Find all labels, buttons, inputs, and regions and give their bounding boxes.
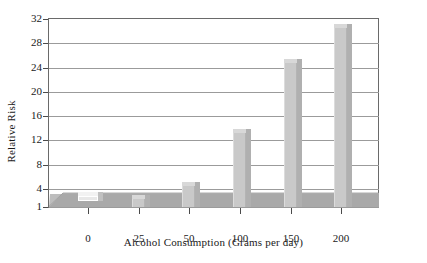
bar-top: [132, 195, 145, 199]
y-axis-tick: [43, 43, 48, 44]
bar-side: [347, 24, 352, 207]
gridline: [49, 116, 379, 117]
y-axis-tick: [43, 140, 48, 141]
bar-face: [182, 186, 195, 207]
x-axis-tick: [341, 208, 342, 214]
x-axis-tick: [139, 208, 140, 214]
y-axis-tick-label: 16: [20, 110, 42, 121]
bar-chart-figure: Relative Risk 322824201612841 0255010015…: [0, 0, 427, 263]
bar-top: [334, 24, 347, 28]
bar-top: [182, 182, 195, 186]
y-axis-tick: [43, 19, 48, 20]
gridline: [49, 92, 379, 93]
bar: [182, 186, 195, 207]
y-axis-tick-label: 24: [20, 62, 42, 73]
bar: [334, 28, 347, 207]
gridline: [49, 140, 379, 141]
y-axis-tick-label: 4: [20, 183, 42, 194]
x-axis-tick: [189, 208, 190, 214]
gridline: [49, 68, 379, 69]
y-axis-tick-label: 8: [20, 159, 42, 170]
x-axis-tick: [88, 208, 89, 214]
y-axis-tick: [43, 165, 48, 166]
gridline: [49, 165, 379, 166]
y-axis-tick: [43, 116, 48, 117]
bar-side: [297, 59, 302, 207]
plot-frame-top: [48, 18, 379, 19]
y-axis-tick-labels: 322824201612841: [18, 18, 42, 208]
bar-top: [78, 192, 98, 196]
bar-side: [195, 182, 200, 207]
bar-face: [334, 28, 347, 207]
bar: [284, 63, 297, 207]
bar-face: [78, 196, 98, 201]
bar: [233, 133, 246, 207]
bar-face: [284, 63, 297, 207]
bar-side: [246, 129, 251, 207]
bar-side: [98, 192, 103, 201]
y-axis-tick-label: 1: [20, 201, 42, 212]
y-axis-tick-label: 28: [20, 37, 42, 48]
gridline: [49, 43, 379, 44]
x-axis-tick: [291, 208, 292, 214]
bar: [132, 199, 145, 207]
bar: [78, 196, 98, 201]
bar-top: [284, 59, 297, 63]
x-axis-tick: [240, 208, 241, 214]
bar-face: [132, 199, 145, 207]
y-axis-tick: [43, 68, 48, 69]
plot-frame-right: [378, 18, 379, 208]
x-axis-title: Alcohol Consumption (Grams per day): [48, 236, 379, 248]
plot-area: 02550100150200: [48, 18, 379, 208]
y-axis-tick-label: 12: [20, 134, 42, 145]
plot-frame-left: [48, 18, 49, 208]
bar-side: [145, 195, 150, 207]
y-axis-tick-label: 32: [20, 13, 42, 24]
bar-top: [233, 129, 246, 133]
y-axis-tick-label: 20: [20, 86, 42, 97]
y-axis-tick: [43, 207, 48, 208]
y-axis-tick: [43, 189, 48, 190]
y-axis-tick: [43, 92, 48, 93]
bar-face: [233, 133, 246, 207]
gridline: [49, 207, 379, 208]
